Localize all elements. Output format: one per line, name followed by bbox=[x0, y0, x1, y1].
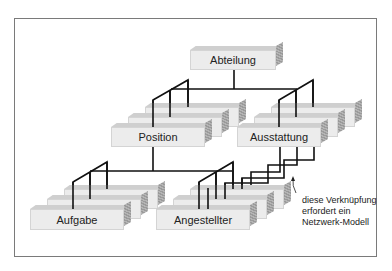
connection-lines-overlay bbox=[0, 0, 392, 271]
annotation-line-1: diese Verknüpfung bbox=[302, 195, 377, 206]
annotation-line-3: Netzwerk-Modell bbox=[302, 217, 377, 228]
annotation-note: diese Verknüpfung erfordert ein Netzwerk… bbox=[302, 195, 377, 228]
annotation-line-2: erfordert ein bbox=[302, 206, 377, 217]
